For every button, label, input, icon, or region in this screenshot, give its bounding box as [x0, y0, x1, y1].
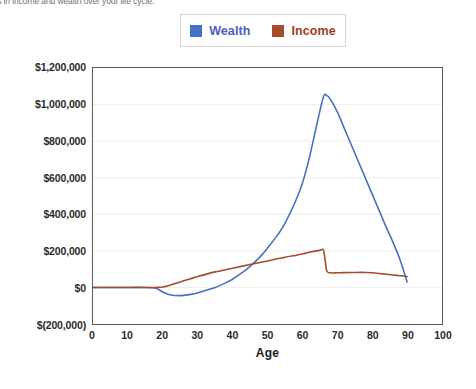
x-axis-tick-label: 40	[227, 329, 239, 341]
y-axis-tick-label: $200,000	[0, 245, 86, 257]
page-caption-text: hanges in income and wealth over your li…	[0, 0, 154, 6]
x-axis-tick-label: 70	[332, 329, 344, 341]
legend-swatch-income	[272, 25, 284, 37]
x-axis-tick-label: 80	[367, 329, 379, 341]
gridlines	[93, 105, 442, 288]
chart-container: $1,200,000$1,000,000$800,000$600,000$400…	[0, 55, 476, 389]
x-axis-tick-labels: 0102030405060708090100	[92, 329, 443, 345]
series-line-income	[93, 249, 407, 287]
y-axis-tick-label: $(200,000)	[0, 319, 86, 331]
legend-swatch-wealth	[190, 25, 202, 37]
y-axis-tick-labels: $1,200,000$1,000,000$800,000$600,000$400…	[0, 67, 86, 325]
page-caption: hanges in income and wealth over your li…	[0, 0, 300, 11]
y-axis-tick-label: $1,000,000	[0, 98, 86, 110]
legend-label-wealth: Wealth	[209, 24, 250, 38]
x-axis-tick-label: 100	[434, 329, 452, 341]
x-axis-tick-label: 50	[262, 329, 274, 341]
chart-legend: Wealth Income	[180, 14, 346, 47]
y-axis-tick-label: $600,000	[0, 172, 86, 184]
y-axis-tick-label: $400,000	[0, 208, 86, 220]
x-axis-title: Age	[92, 346, 443, 360]
plot-svg	[93, 68, 442, 324]
legend-entry-income[interactable]: Income	[272, 24, 335, 38]
y-axis-tick-label: $0	[0, 282, 86, 294]
series-lines	[93, 94, 407, 295]
x-axis-tick-label: 0	[89, 329, 95, 341]
x-axis-tick-label: 90	[402, 329, 414, 341]
x-axis-tick-label: 30	[191, 329, 203, 341]
legend-label-income: Income	[291, 24, 335, 38]
legend-entry-wealth[interactable]: Wealth	[190, 24, 250, 38]
x-axis-tick-label: 20	[156, 329, 168, 341]
x-axis-tick-label: 60	[297, 329, 309, 341]
x-axis-tick-label: 10	[121, 329, 133, 341]
series-line-wealth	[93, 94, 407, 295]
plot-area	[92, 67, 443, 325]
y-axis-tick-label: $1,200,000	[0, 61, 86, 73]
y-axis-tick-label: $800,000	[0, 135, 86, 147]
